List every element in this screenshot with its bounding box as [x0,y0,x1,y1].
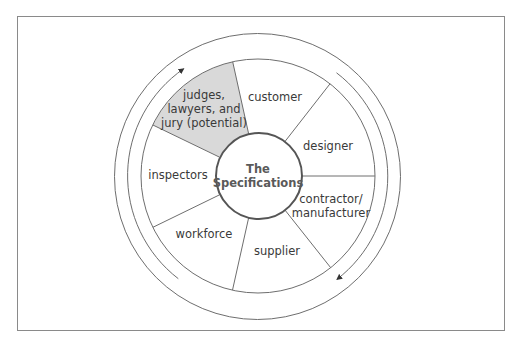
sector-contractor-line1: contractor/ [292,192,370,206]
sector-contractor-line2: manufacturer [292,206,370,220]
hub-label: The Specifications [213,162,304,190]
divider-workforce-inspectors [153,195,220,227]
hub-label-line1: The [213,162,304,176]
sector-contractor-label: contractor/ manufacturer [292,192,370,220]
divider-supplier-workforce [233,218,249,290]
sector-workforce-label: workforce [176,227,233,241]
sector-judges-line1: judges, [161,88,247,102]
sector-supplier-label: supplier [254,244,300,258]
sector-inspectors-label: inspectors [148,168,207,182]
sector-judges-line3: jury (potential) [161,116,247,130]
sector-judges-label: judges, lawyers, and jury (potential) [161,88,247,130]
sector-customer-label: customer [248,90,302,104]
sector-judges-line2: lawyers, and [161,102,247,116]
hub-label-line2: Specifications [213,176,304,190]
sector-designer-label: designer [303,139,353,153]
